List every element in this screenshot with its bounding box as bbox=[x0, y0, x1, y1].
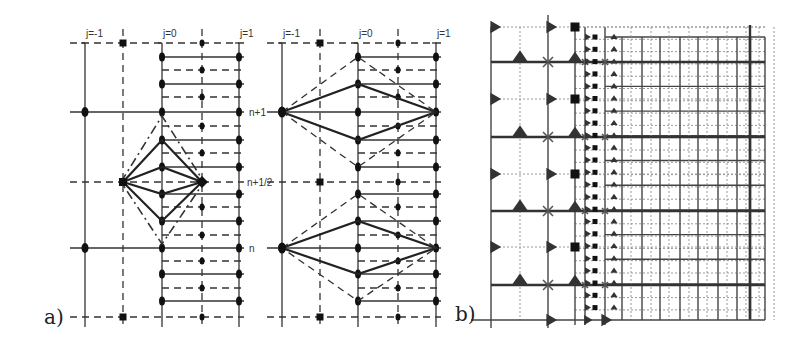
node-dot-icon bbox=[355, 190, 361, 199]
node-dot-icon bbox=[200, 258, 205, 265]
triangle-up-icon bbox=[512, 50, 528, 62]
node-square-icon bbox=[593, 47, 598, 52]
node-square-icon bbox=[593, 59, 598, 64]
triangle-up-icon bbox=[610, 181, 617, 186]
triangle-up-icon bbox=[610, 243, 617, 248]
triangle-up-icon bbox=[568, 52, 582, 62]
triangle-up-icon bbox=[610, 280, 617, 285]
node-square-icon bbox=[593, 305, 598, 310]
triangle-up-icon bbox=[610, 218, 617, 223]
node-dot-icon bbox=[236, 163, 242, 172]
triangle-up-icon bbox=[610, 292, 617, 297]
column-label: j=1 bbox=[239, 28, 254, 39]
triangle-up-icon bbox=[610, 206, 617, 211]
mesh-refinement-figure: j=-1j=0j=1n+1n+1/2n j=-1j=0j=1 bbox=[0, 0, 789, 345]
node-square-icon bbox=[593, 35, 598, 40]
node-square-icon bbox=[593, 71, 598, 76]
triangle-up-icon bbox=[610, 132, 617, 137]
node-square-icon bbox=[119, 178, 127, 186]
column-label: j=0 bbox=[162, 28, 177, 39]
node-dot-icon bbox=[433, 163, 439, 172]
node-square-icon bbox=[571, 95, 580, 104]
node-square-icon bbox=[317, 40, 324, 47]
panel-a-label: a) bbox=[44, 305, 64, 329]
triangle-right-icon bbox=[584, 315, 592, 325]
node-dot-icon bbox=[82, 107, 89, 117]
node-dot-icon bbox=[200, 204, 205, 211]
node-dot-icon bbox=[236, 270, 242, 279]
triangle-right-icon bbox=[546, 21, 557, 34]
node-dot-icon bbox=[159, 270, 165, 279]
node-dot-icon bbox=[278, 107, 286, 118]
triangle-up-icon bbox=[568, 201, 582, 211]
node-dot-icon bbox=[159, 297, 165, 306]
node-square-icon bbox=[593, 207, 598, 212]
node-square-icon bbox=[593, 121, 598, 126]
triangle-up-icon bbox=[512, 273, 528, 285]
node-square-icon bbox=[593, 281, 598, 286]
panel-b-grid bbox=[471, 15, 774, 328]
node-square-icon bbox=[593, 219, 598, 224]
triangle-up-icon bbox=[512, 125, 528, 137]
triangle-right-icon bbox=[490, 241, 501, 254]
panel-b-label: b) bbox=[455, 302, 476, 326]
triangle-up-icon bbox=[568, 127, 582, 137]
column-label: j=-1 bbox=[85, 28, 103, 39]
node-dot-icon bbox=[433, 190, 439, 199]
node-square-icon bbox=[593, 96, 598, 101]
node-dot-icon bbox=[278, 243, 286, 254]
node-dot-icon bbox=[433, 80, 439, 89]
node-square-icon bbox=[593, 293, 598, 298]
node-dot-icon bbox=[236, 244, 242, 253]
node-square-icon bbox=[571, 170, 580, 179]
node-square-icon bbox=[571, 243, 580, 252]
node-square-icon bbox=[317, 179, 324, 186]
node-square-icon bbox=[593, 194, 598, 199]
node-dot-icon bbox=[200, 94, 205, 101]
triangle-up-icon bbox=[610, 157, 617, 162]
node-dot-icon bbox=[159, 80, 165, 89]
node-square-icon bbox=[571, 23, 580, 32]
node-dot-icon bbox=[433, 217, 439, 226]
node-dot-icon bbox=[236, 136, 242, 145]
node-dot-icon bbox=[396, 179, 401, 186]
node-square-icon bbox=[593, 145, 598, 150]
node-dot-icon bbox=[236, 217, 242, 226]
node-dot-icon bbox=[433, 136, 439, 145]
triangle-up-icon bbox=[610, 71, 617, 76]
node-dot-icon bbox=[236, 190, 242, 199]
triangle-up-icon bbox=[610, 255, 617, 260]
node-dot-icon bbox=[236, 108, 242, 117]
node-dot-icon bbox=[200, 150, 205, 157]
column-label: j=-1 bbox=[282, 28, 300, 39]
node-square-icon bbox=[593, 108, 598, 113]
column-label: j=1 bbox=[436, 28, 451, 39]
triangle-up-icon bbox=[610, 268, 617, 273]
node-square-icon bbox=[593, 84, 598, 89]
column-label: j=0 bbox=[358, 28, 373, 39]
node-square-icon bbox=[593, 158, 598, 163]
node-dot-icon bbox=[355, 244, 361, 253]
triangle-up-icon bbox=[610, 83, 617, 88]
triangle-up-icon bbox=[610, 120, 617, 125]
triangle-up-icon bbox=[610, 231, 617, 236]
triangle-up-icon bbox=[610, 194, 617, 199]
triangle-right-icon bbox=[490, 168, 501, 181]
node-dot-icon bbox=[236, 80, 242, 89]
node-square-icon bbox=[593, 256, 598, 261]
node-dot-icon bbox=[396, 40, 401, 47]
node-dot-icon bbox=[433, 270, 439, 279]
triangle-up-icon bbox=[610, 169, 617, 174]
node-square-icon bbox=[593, 182, 598, 187]
node-dot-icon bbox=[396, 314, 401, 321]
triangle-up-icon bbox=[512, 199, 528, 211]
node-dot-icon bbox=[200, 67, 205, 74]
node-square-icon bbox=[120, 314, 127, 321]
panel-a-left-stencil: j=-1j=0j=1n+1n+1/2n bbox=[70, 28, 273, 327]
triangle-right-icon bbox=[546, 93, 557, 106]
node-dot-icon bbox=[355, 163, 361, 172]
node-dot-icon bbox=[236, 297, 242, 306]
row-label-n: n bbox=[249, 243, 255, 254]
triangle-up-icon bbox=[610, 108, 617, 113]
node-dot-icon bbox=[200, 314, 205, 321]
